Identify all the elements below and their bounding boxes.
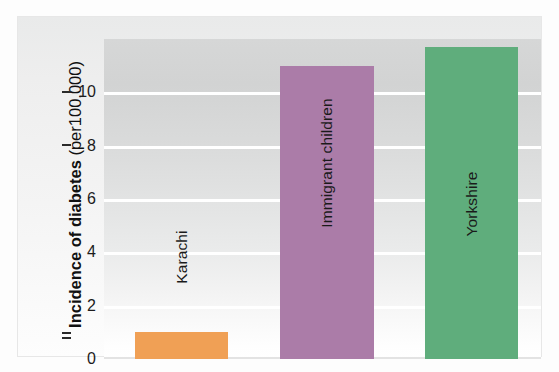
bar-karachi[interactable]: Karachi [135,332,228,359]
bar-label-yorkshire: Yorkshire [463,172,481,237]
y-tick-label-10: 10 [78,83,96,101]
y-tick-label-2: 2 [87,297,96,315]
bar-immigrant-children[interactable]: Immigrant children [280,66,374,359]
y-tick-mark-10 [62,91,71,93]
y-tick-mark-0b [62,337,71,339]
y-axis-ticks: 0 2 4 6 8 10 [70,39,96,359]
bar-chart-figure: Incidence of diabetes (per100,000) 0 2 4… [0,0,559,372]
y-tick-mark-0 [62,332,71,334]
bar-label-immigrant-children: Immigrant children [318,98,336,227]
y-tick-label-4: 4 [87,243,96,261]
y-tick-mark-8 [62,144,71,146]
y-tick-label-6: 6 [87,190,96,208]
chart-frame: Incidence of diabetes (per100,000) 0 2 4… [18,17,541,356]
plot-area: Karachi Immigrant children Yorkshire [104,39,541,359]
bar-yorkshire[interactable]: Yorkshire [425,47,518,359]
y-tick-label-8: 8 [87,137,96,155]
y-tick-label-0: 0 [87,350,96,368]
bar-label-karachi: Karachi [173,231,191,284]
